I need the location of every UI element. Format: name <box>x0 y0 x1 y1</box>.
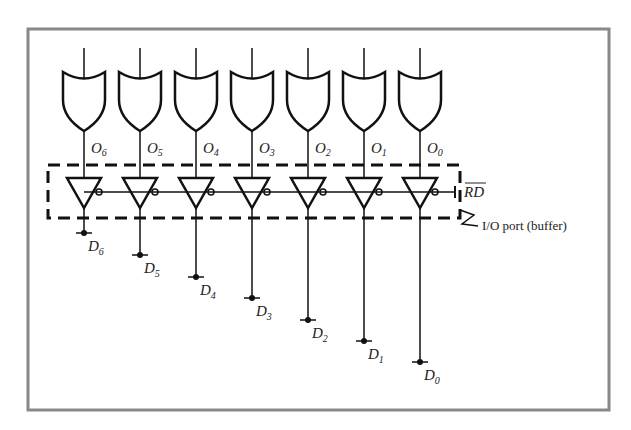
gate-column-1: O1D1 <box>343 48 387 365</box>
output-label: O5 <box>147 140 163 158</box>
data-label: D1 <box>367 346 384 365</box>
rd-label: RD <box>463 184 484 200</box>
output-label: O2 <box>315 140 331 158</box>
data-label: D3 <box>255 303 272 322</box>
gate-column-3: O3D3 <box>231 48 275 322</box>
port-callout-line <box>460 210 478 226</box>
data-pin <box>417 359 423 365</box>
data-label: D6 <box>87 238 104 257</box>
data-label: D0 <box>423 367 440 386</box>
gate-column-2: O2D2 <box>287 48 331 344</box>
output-label: O0 <box>427 140 443 158</box>
or-gate <box>399 72 441 131</box>
data-label: D2 <box>311 325 328 344</box>
output-label: O3 <box>259 140 275 158</box>
or-gate <box>63 72 105 131</box>
or-gate <box>343 72 385 131</box>
data-label: D5 <box>143 260 160 279</box>
or-gate <box>175 72 217 131</box>
data-pin <box>137 252 143 258</box>
port-label: I/O port (buffer) <box>482 218 567 233</box>
data-label: D4 <box>199 282 216 301</box>
gate-column-4: O4D4 <box>175 48 219 301</box>
data-pin <box>81 230 87 236</box>
io-port-diagram: O6D6O5D5O4D4O3D3O2D2O1D1O0D0 RD I/O port… <box>0 0 631 430</box>
or-gate <box>231 72 273 131</box>
data-pin <box>361 338 367 344</box>
output-label: O6 <box>91 140 107 158</box>
or-gate <box>119 72 161 131</box>
data-pin <box>305 317 311 323</box>
output-label: O4 <box>203 140 219 158</box>
output-label: O1 <box>371 140 387 158</box>
or-gate <box>287 72 329 131</box>
data-pin <box>249 295 255 301</box>
gate-column-6: O6D6 <box>63 48 107 257</box>
data-pin <box>193 274 199 280</box>
